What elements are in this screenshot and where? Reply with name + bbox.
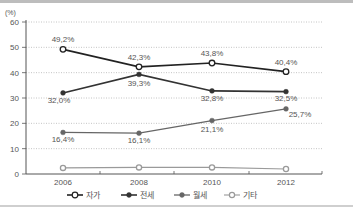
data-point-marker bbox=[137, 72, 142, 77]
y-tick-label: 0 bbox=[15, 170, 20, 179]
series-line-3 bbox=[63, 167, 286, 169]
data-point-marker bbox=[136, 64, 142, 70]
data-label: 16,4% bbox=[52, 135, 75, 144]
legend-marker-icon bbox=[180, 193, 185, 198]
data-label: 16,1% bbox=[128, 136, 151, 145]
y-tick-label: 50 bbox=[10, 43, 19, 52]
data-point-marker bbox=[210, 118, 215, 123]
data-label: 32,5% bbox=[275, 94, 298, 103]
series-line-1 bbox=[63, 74, 286, 92]
legend-label: 자가 bbox=[86, 191, 101, 200]
data-label: 32,0% bbox=[48, 96, 71, 105]
data-point-marker bbox=[209, 60, 215, 66]
data-labels: 49,2%42,3%43,8%40,4%32,0%39,3%32,8%32,5%… bbox=[48, 35, 312, 145]
x-tick-label: 2006 bbox=[54, 178, 72, 187]
data-label: 39,3% bbox=[128, 79, 151, 88]
y-axis-unit-label: (%) bbox=[5, 9, 16, 17]
legend-marker-icon bbox=[127, 193, 132, 198]
bottom-rule bbox=[0, 205, 353, 207]
legend-label: 전세 bbox=[140, 190, 154, 200]
series-group bbox=[60, 47, 289, 172]
series-line-0 bbox=[63, 49, 286, 71]
legend-marker-icon bbox=[229, 192, 234, 197]
legend-label: 월세 bbox=[193, 190, 207, 200]
legend: 자가전세월세기타 bbox=[67, 190, 258, 200]
legend-label: 기타 bbox=[243, 191, 258, 200]
y-tick-label: 30 bbox=[10, 94, 19, 103]
data-label: 21,1% bbox=[201, 125, 224, 134]
line-chart: (%)01020304050602006200820102012 49,2%42… bbox=[0, 0, 353, 210]
y-tick-label: 10 bbox=[10, 145, 19, 154]
y-tick-label: 20 bbox=[10, 119, 19, 128]
data-point-marker bbox=[60, 165, 65, 170]
y-tick-label: 40 bbox=[10, 69, 19, 78]
data-point-marker bbox=[61, 130, 66, 135]
legend-marker-icon bbox=[72, 192, 78, 198]
data-label: 25,7% bbox=[289, 110, 312, 119]
x-tick-label: 2010 bbox=[203, 178, 221, 187]
x-tick-label: 2012 bbox=[277, 178, 295, 187]
x-tick-label: 2008 bbox=[130, 178, 148, 187]
y-tick-label: 60 bbox=[10, 18, 19, 27]
data-label: 43,8% bbox=[201, 49, 224, 58]
series-line-2 bbox=[63, 109, 286, 133]
data-point-marker bbox=[61, 91, 66, 96]
data-point-marker bbox=[210, 89, 215, 94]
data-label: 40,4% bbox=[275, 58, 298, 67]
data-point-marker bbox=[137, 131, 142, 136]
data-label: 32,8% bbox=[201, 94, 224, 103]
data-label: 42,3% bbox=[128, 53, 151, 62]
data-point-marker bbox=[283, 166, 288, 171]
data-point-marker bbox=[283, 69, 289, 75]
data-point-marker bbox=[60, 47, 66, 53]
data-point-marker bbox=[209, 165, 214, 170]
data-point-marker bbox=[136, 165, 141, 170]
data-label: 49,2% bbox=[52, 35, 75, 44]
